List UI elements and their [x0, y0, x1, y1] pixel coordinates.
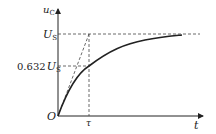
us-label: US [43, 28, 57, 42]
level-label: 0.632US [17, 60, 61, 74]
x-axis-label: t [194, 119, 199, 132]
charging-curve [58, 35, 182, 116]
tau-label: τ [86, 118, 92, 128]
charging-curve-diagram: uC US 0.632US O τ t [0, 0, 216, 134]
origin-label: O [47, 110, 56, 123]
y-axis-label: uC [43, 4, 55, 17]
